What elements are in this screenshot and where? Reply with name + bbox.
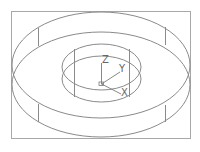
y-axis-label: Y (118, 63, 126, 74)
z-axis-label: Z (102, 54, 109, 65)
cad-viewport[interactable]: Z Y X (0, 0, 200, 152)
y-axis-line (102, 72, 121, 84)
x-axis-line (102, 84, 122, 94)
x-axis-label: X (121, 87, 128, 98)
axis-triad: Z Y X (99, 54, 128, 98)
